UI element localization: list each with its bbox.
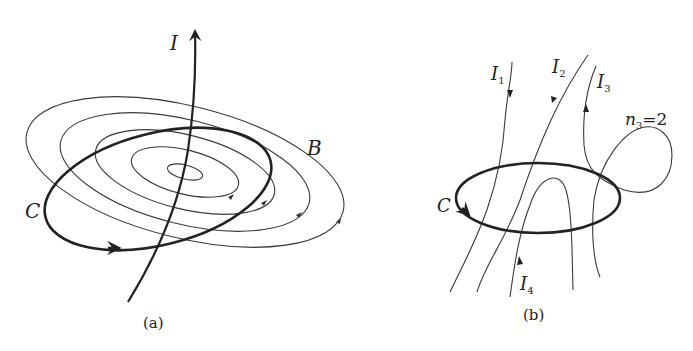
panel-b: I1 I2 I3 I4 n3=2 C (b) [437,55,672,324]
label-n3: n3=2 [625,109,667,131]
current-i3-winding [593,127,672,277]
current-wire-i [128,32,195,302]
label-field-b: B [306,136,322,160]
panel-a: I B C (a) [11,31,359,332]
field-lines-b [11,69,359,276]
loop-c-b [456,163,620,233]
label-i3: I3 [596,71,611,94]
figure-canvas: I B C (a) I1 I2 I3 I4 n3=2 C (b) [0,0,693,351]
label-current-i: I [169,31,179,55]
caption-b: (b) [523,306,544,324]
label-i1: I1 [490,63,505,86]
caption-a: (a) [143,314,164,332]
current-i1 [450,62,512,292]
label-i2: I2 [551,56,566,79]
label-loop-c-a: C [25,199,40,223]
label-i4: I4 [519,273,534,296]
label-loop-c-b: C [437,195,451,216]
current-i2 [477,55,588,292]
